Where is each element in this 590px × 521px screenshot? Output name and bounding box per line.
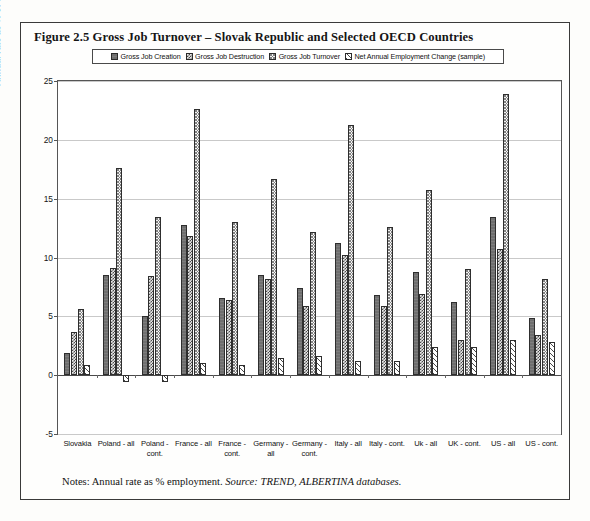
legend-label: Net Annual Employment Change (sample) [354, 52, 485, 61]
y-axis-tick-label: 20 [44, 135, 53, 145]
legend-label: Gross Job Turnover [279, 52, 340, 61]
x-axis-category-label: France - cont. [211, 439, 254, 459]
bar [535, 335, 541, 375]
plot-inner [58, 81, 561, 434]
x-axis-category-label: Germany -cont. [288, 439, 331, 459]
gridline [58, 81, 561, 82]
bar [394, 361, 400, 375]
x-axis-tick-mark [368, 375, 369, 378]
bar [110, 268, 116, 375]
y-axis-tick-mark [54, 316, 58, 317]
x-axis-category-label: Uk - all [404, 439, 447, 449]
bar [297, 288, 303, 375]
bar [355, 361, 361, 375]
bar [258, 275, 264, 375]
legend-swatch-icon [186, 53, 193, 60]
bar [226, 300, 232, 375]
legend-swatch-icon [111, 53, 118, 60]
bar [348, 125, 354, 376]
x-axis-tick-mark [561, 375, 562, 378]
x-axis-category-label: US - cont. [520, 439, 563, 449]
y-axis-tick-label: 10 [44, 253, 53, 263]
bar [426, 190, 432, 375]
legend-item: Gross Job Destruction [186, 52, 265, 61]
legend-swatch-icon [345, 53, 352, 60]
bar [529, 318, 535, 376]
bar [310, 232, 316, 376]
plot-area: -50510152025SlovakiaPoland - allPoland -… [57, 80, 562, 435]
y-axis-tick-mark [54, 140, 58, 141]
figure-title: Figure 2.5 Gross Job Turnover – Slovak R… [34, 30, 564, 45]
bar [387, 227, 393, 375]
y-axis-tick-label: -5 [46, 429, 53, 439]
bar [316, 356, 322, 375]
gridline [58, 434, 561, 435]
x-axis-tick-mark [290, 375, 291, 378]
figure-page: Figure 2.5 Gross Job Turnover – Slovak R… [0, 0, 590, 521]
bar [103, 275, 109, 375]
bar [271, 179, 277, 376]
y-axis-tick-label: 15 [44, 194, 53, 204]
bar [542, 279, 548, 375]
bar [64, 353, 70, 375]
y-axis-tick-mark [54, 434, 58, 435]
x-axis-category-label: Poland - all [95, 439, 138, 449]
bar [335, 243, 341, 375]
bar [123, 375, 129, 382]
bar [181, 225, 187, 376]
bar [116, 168, 122, 375]
bar [471, 347, 477, 375]
x-axis-tick-mark [406, 375, 407, 378]
y-axis-tick-label: 0 [48, 370, 53, 380]
x-axis-category-label: US - all [482, 439, 525, 449]
bar [155, 217, 161, 375]
bar [342, 255, 348, 375]
x-axis-tick-mark [522, 375, 523, 378]
notes-source-value: TREND, ALBERTINA databases. [261, 476, 402, 487]
bar [148, 276, 154, 375]
bar [303, 306, 309, 375]
bar [219, 298, 225, 376]
bar [432, 347, 438, 375]
bar [278, 358, 284, 376]
notes-text: Notes: Annual rate as % employment. [62, 476, 223, 487]
bar [200, 363, 206, 375]
zero-line [58, 375, 561, 376]
x-axis-category-label: France - all [172, 439, 215, 449]
bar [187, 236, 193, 375]
bar [413, 272, 419, 376]
x-axis-tick-mark [174, 375, 175, 378]
bar [381, 306, 387, 375]
bar [503, 94, 509, 375]
bar [162, 375, 168, 382]
bar [374, 295, 380, 375]
x-axis-tick-mark [135, 375, 136, 378]
x-axis-category-label: Poland - cont. [133, 439, 176, 459]
x-axis-tick-mark [484, 375, 485, 378]
x-axis-tick-mark [445, 375, 446, 378]
y-axis-tick-label: 25 [44, 76, 53, 86]
figure-notes: Notes: Annual rate as % employment. Sour… [62, 476, 532, 487]
legend-label: Gross Job Destruction [195, 52, 264, 61]
bar [232, 222, 238, 375]
bar [265, 279, 271, 375]
x-axis-category-label: Germany - all [249, 439, 292, 459]
bar [194, 109, 200, 375]
chart-legend: Gross Job CreationGross Job DestructionG… [92, 49, 504, 64]
y-axis-tick-mark [54, 375, 58, 376]
legend-item: Gross Job Creation [111, 52, 181, 61]
x-axis-tick-mark [97, 375, 98, 378]
bar [142, 316, 148, 375]
legend-label: Gross Job Creation [120, 52, 180, 61]
bar [549, 342, 555, 375]
y-axis-tick-mark [54, 258, 58, 259]
x-axis-category-label: UK - cont. [443, 439, 486, 449]
y-axis-title: Annual rate as % of total employment [0, 0, 2, 86]
legend-item: Net Annual Employment Change (sample) [345, 52, 485, 61]
legend-swatch-icon [269, 53, 276, 60]
bar [458, 340, 464, 375]
bar [510, 340, 516, 375]
y-axis-tick-mark [54, 81, 58, 82]
legend-item: Gross Job Turnover [269, 52, 340, 61]
bar [465, 269, 471, 375]
